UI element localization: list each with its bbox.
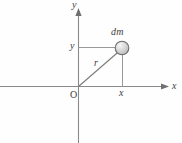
origin-label: O xyxy=(70,90,77,100)
radius-label: r xyxy=(94,58,98,68)
diagram-canvas xyxy=(0,0,182,143)
filled-circle-marker xyxy=(115,41,129,55)
radius-vector-line xyxy=(79,51,121,87)
arrow-right-icon xyxy=(161,83,169,89)
coordinate-diagram-figure: y x O dm y x r xyxy=(0,0,182,143)
y-axis-label: y xyxy=(72,0,76,10)
x-coordinate-label: x xyxy=(119,88,123,98)
x-axis-label: x xyxy=(172,81,176,91)
y-coordinate-label: y xyxy=(70,41,74,51)
mass-element-label: dm xyxy=(111,27,124,37)
